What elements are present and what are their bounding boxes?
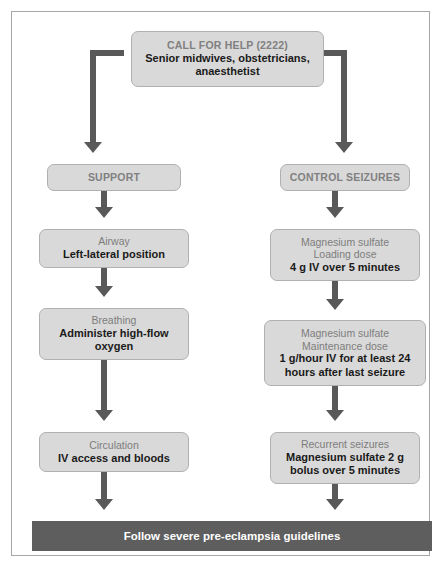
call-for-help-line1: Senior midwives, obstetricians, bbox=[145, 52, 309, 65]
support-title: SUPPORT bbox=[88, 171, 140, 184]
arrow-head-to-maintenance-dose bbox=[326, 299, 344, 310]
circulation-heading: Circulation bbox=[89, 439, 139, 452]
arrow-head-left-to-footer bbox=[95, 499, 113, 510]
node-support: SUPPORT bbox=[47, 164, 181, 191]
maintenance-dose-line1: 1 g/hour IV for at least 24 bbox=[280, 352, 411, 365]
recurrent-seizures-line1: Magnesium sulfate 2 g bbox=[286, 451, 404, 464]
maintenance-dose-line2: hours after last seizure bbox=[285, 366, 405, 379]
breathing-heading: Breathing bbox=[92, 314, 137, 327]
node-call-for-help: CALL FOR HELP (2222) Senior midwives, ob… bbox=[131, 31, 324, 87]
call-for-help-heading: CALL FOR HELP (2222) bbox=[167, 39, 288, 52]
circulation-line1: IV access and bloods bbox=[58, 452, 170, 465]
arrow-head-to-recurrent-seizures bbox=[326, 410, 344, 421]
node-magnesium-maintenance-dose: Magnesium sulfate Maintenance dose 1 g/h… bbox=[264, 320, 426, 386]
arrow-head-to-control-seizures bbox=[335, 142, 353, 153]
node-airway: Airway Left-lateral position bbox=[39, 229, 189, 268]
arrow-head-to-airway bbox=[95, 207, 113, 218]
arrow-head-right-to-footer bbox=[326, 499, 344, 510]
node-recurrent-seizures: Recurrent seizures Magnesium sulfate 2 g… bbox=[270, 432, 420, 484]
recurrent-seizures-line2: bolus over 5 minutes bbox=[290, 464, 400, 477]
connector-header-left-vertical bbox=[90, 50, 96, 142]
maintenance-dose-heading: Magnesium sulfate bbox=[301, 327, 389, 340]
footer-label: Follow severe pre-eclampsia guidelines bbox=[124, 530, 341, 542]
loading-dose-heading: Magnesium sulfate bbox=[301, 236, 389, 249]
recurrent-seizures-heading: Recurrent seizures bbox=[301, 438, 389, 451]
control-seizures-title: CONTROL SEIZURES bbox=[290, 171, 400, 184]
flowchart-frame: CALL FOR HELP (2222) Senior midwives, ob… bbox=[11, 11, 430, 556]
breathing-line2: oxygen bbox=[95, 340, 134, 353]
loading-dose-subheading: Loading dose bbox=[313, 248, 376, 261]
breathing-line1: Administer high-flow bbox=[59, 327, 168, 340]
arrow-head-to-loading-dose bbox=[326, 207, 344, 218]
airway-line1: Left-lateral position bbox=[63, 248, 165, 261]
arrow-head-to-support bbox=[84, 142, 102, 153]
call-for-help-line2: anaesthetist bbox=[195, 65, 259, 78]
node-magnesium-loading-dose: Magnesium sulfate Loading dose 4 g IV ov… bbox=[270, 229, 420, 281]
node-breathing: Breathing Administer high-flow oxygen bbox=[39, 308, 189, 360]
arrow-head-to-circulation bbox=[95, 410, 113, 421]
maintenance-dose-subheading: Maintenance dose bbox=[302, 340, 388, 353]
arrow-head-to-breathing bbox=[95, 286, 113, 297]
node-circulation: Circulation IV access and bloods bbox=[39, 432, 189, 472]
node-control-seizures: CONTROL SEIZURES bbox=[280, 164, 410, 191]
loading-dose-line1: 4 g IV over 5 minutes bbox=[290, 261, 400, 274]
airway-heading: Airway bbox=[98, 235, 130, 248]
node-follow-guidelines: Follow severe pre-eclampsia guidelines bbox=[32, 521, 432, 551]
connector-header-right-vertical bbox=[341, 50, 347, 142]
